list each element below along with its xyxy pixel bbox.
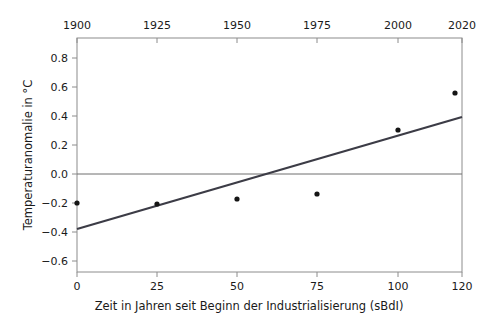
chart-figure: 1900 1925 1950 1975 2000 2020 0 25 50 75… [0, 0, 498, 323]
data-points [74, 90, 457, 206]
left-axis-ticks [72, 58, 77, 261]
bottom-tick-label-75: 75 [310, 281, 324, 292]
bottom-tick-label-50: 50 [230, 281, 244, 292]
plot-border [77, 38, 462, 272]
data-point [395, 127, 400, 132]
data-point [234, 196, 239, 201]
top-tick-label-1925: 1925 [143, 20, 171, 31]
y-tick-label-0.6: 0.6 [36, 82, 68, 93]
data-point [452, 90, 457, 95]
top-axis-ticks [77, 38, 462, 43]
y-axis-title: Temperaturanomalie in °C [21, 55, 35, 255]
y-tick-label-0.0: 0.0 [36, 169, 68, 180]
bottom-tick-label-100: 100 [388, 281, 409, 292]
top-tick-label-1975: 1975 [303, 20, 331, 31]
top-tick-label-2000: 2000 [384, 20, 412, 31]
chart-canvas [0, 0, 498, 323]
bottom-tick-label-0: 0 [74, 281, 81, 292]
data-point [154, 201, 159, 206]
y-tick-label--0.4: −0.4 [32, 227, 68, 238]
plot-frame [77, 38, 462, 272]
data-point [314, 191, 319, 196]
bottom-tick-label-120: 120 [452, 281, 473, 292]
y-tick-label-0.2: 0.2 [36, 140, 68, 151]
top-tick-label-1900: 1900 [63, 20, 91, 31]
top-tick-label-1950: 1950 [223, 20, 251, 31]
y-tick-label--0.2: −0.2 [32, 198, 68, 209]
y-tick-label-0.4: 0.4 [36, 111, 68, 122]
bottom-tick-label-25: 25 [150, 281, 164, 292]
top-tick-label-2020: 2020 [448, 20, 476, 31]
y-tick-label-0.8: 0.8 [36, 53, 68, 64]
y-tick-label--0.6: −0.6 [32, 256, 68, 267]
data-point [74, 200, 79, 205]
x-axis-title: Zeit in Jahren seit Beginn der Industria… [0, 299, 498, 313]
bottom-axis-ticks [77, 272, 462, 277]
trend-line [77, 117, 462, 229]
